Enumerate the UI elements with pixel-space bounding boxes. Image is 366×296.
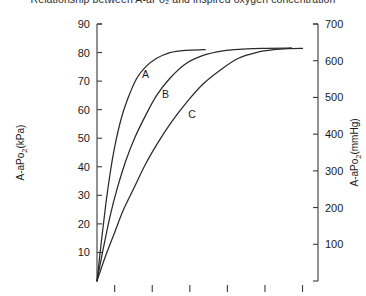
left-axis-tick-label: 70 <box>78 75 90 87</box>
curve-label-b: B <box>162 88 169 100</box>
left-axis-tick-label: 10 <box>78 246 90 258</box>
left-axis-tick-label: 50 <box>78 132 90 144</box>
right-axis-tick-label: 500 <box>325 91 343 103</box>
right-axis-tick-label: 400 <box>325 128 343 140</box>
right-axis-tick-label: 100 <box>325 238 343 250</box>
plot-svg: 102030405060708090 100200300400500600700… <box>0 0 366 296</box>
curves <box>97 48 303 281</box>
curve-label-a: A <box>142 68 149 80</box>
left-axis-tick-label: 80 <box>78 47 90 59</box>
right-axis-tick-label: 700 <box>325 18 343 30</box>
curve-labels: ABC <box>142 68 196 120</box>
left-axis-tick-label: 40 <box>78 161 90 173</box>
left-axis-tick-label: 60 <box>78 104 90 116</box>
x-axis <box>115 285 303 292</box>
right-axis: 100200300400500600700 <box>313 18 343 281</box>
right-axis-tick-label: 200 <box>325 202 343 214</box>
right-axis-title: A-aPo2(mmHg) <box>349 118 363 186</box>
axis-titles: A-aPo2(kPa)A-aPo2(mmHg) <box>15 118 363 186</box>
left-axis-tick-label: 20 <box>78 218 90 230</box>
curve-a <box>97 50 205 281</box>
chart-container: Relationship between A-aPo₂ and inspired… <box>0 0 366 296</box>
curve-b <box>97 48 291 281</box>
left-axis: 102030405060708090 <box>78 18 102 281</box>
right-axis-tick-label: 300 <box>325 165 343 177</box>
left-axis-tick-label: 90 <box>78 18 90 30</box>
right-axis-tick-label: 600 <box>325 55 343 67</box>
left-axis-title: A-aPo2(kPa) <box>15 125 29 181</box>
curve-label-c: C <box>188 108 196 120</box>
curve-c <box>97 48 303 281</box>
left-axis-tick-label: 30 <box>78 189 90 201</box>
